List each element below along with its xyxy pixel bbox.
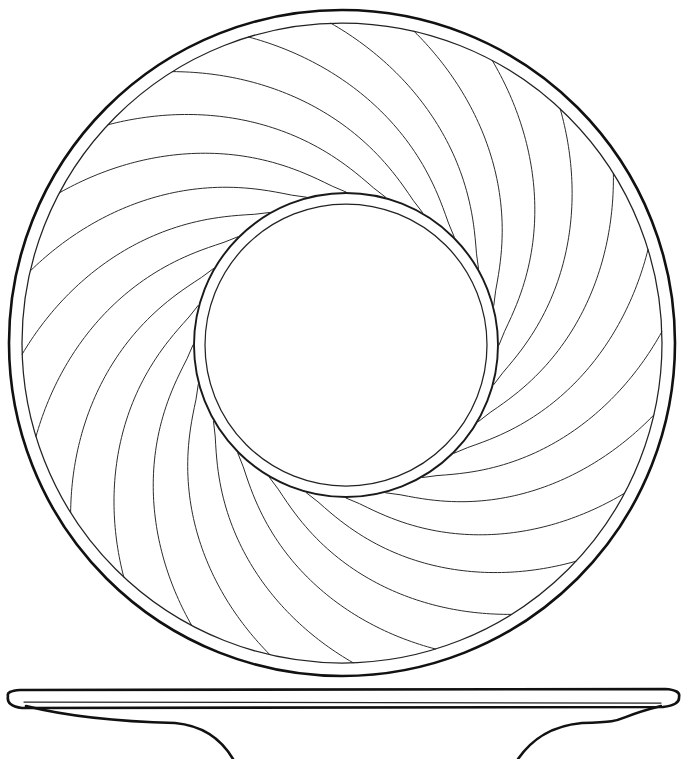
medallion-fill: [194, 193, 498, 497]
figure-root: Plate with spiral-fluted rim Plan view P…: [0, 0, 687, 759]
plan-view-group: [9, 10, 675, 676]
plate-line-drawing: [0, 0, 687, 759]
